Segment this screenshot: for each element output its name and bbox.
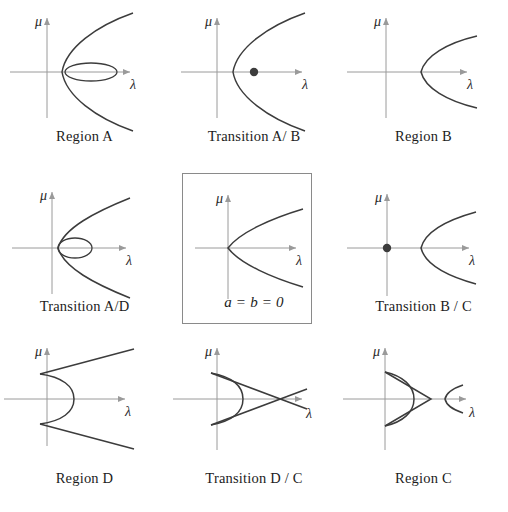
axes [10, 18, 130, 118]
x-axis-arrow [119, 245, 126, 251]
branch-upper-line [211, 373, 307, 409]
panel-transition-a-d: μ λ Transition A/D [0, 166, 169, 336]
branch-lower-line [40, 424, 134, 449]
x-axis-arrow [295, 69, 302, 75]
panel-caption-region-d: Region D [0, 470, 169, 487]
axes [195, 195, 296, 299]
axes [343, 348, 466, 450]
panel-region-b: μ λ Region B [339, 0, 508, 166]
y-axis-arrow [214, 18, 220, 25]
equilibrium-point-dot [383, 244, 391, 252]
figure-grid: μ λ Region A μ λ Transition A/ B [0, 0, 508, 512]
panel-caption-transition-a-d: Transition A/D [0, 298, 169, 315]
axes [181, 18, 302, 118]
y-axis-arrow [225, 195, 231, 202]
y-axis-arrow [49, 192, 55, 199]
y-axis-arrow [383, 18, 389, 25]
panel-region-a: μ λ Region A [0, 0, 169, 166]
x-axis-arrow [459, 396, 466, 402]
panel-caption-transition-b-c: Transition B / C [339, 298, 508, 315]
x-axis-arrow [118, 396, 125, 402]
x-axis-arrow [460, 69, 467, 75]
y-axis-arrow [382, 348, 388, 355]
panel-caption-transition-d-c: Transition D / C [169, 470, 339, 487]
panel-caption-a-b-zero: a = b = 0 [169, 294, 339, 311]
panel-caption-region-c: Region C [339, 470, 508, 487]
y-axis-arrow [384, 194, 390, 201]
axes [173, 348, 302, 450]
y-axis-arrow [44, 18, 50, 25]
branch-upper-line [40, 349, 134, 374]
y-axis-arrow [44, 348, 50, 355]
axes [347, 18, 467, 118]
panel-caption-region-a: Region A [0, 128, 169, 145]
x-axis-arrow [123, 69, 130, 75]
equilibrium-point-dot [250, 68, 258, 76]
panel-region-d: μ λ Region D [0, 336, 169, 512]
axes [347, 194, 469, 296]
panel-caption-transition-a-b: Transition A/ B [169, 128, 339, 145]
x-axis-arrow [289, 245, 296, 251]
panel-caption-region-b: Region B [339, 128, 508, 145]
x-axis-arrow [295, 396, 302, 402]
panel-region-c: μ λ Region C [339, 336, 508, 512]
branch-lower-line [211, 389, 307, 425]
panel-transition-b-c: μ λ Transition B / C [339, 166, 508, 336]
axes [4, 348, 125, 446]
panel-a-b-zero: μ λ a = b = 0 [169, 166, 339, 336]
panel-transition-a-b: μ λ Transition A/ B [169, 0, 339, 166]
panel-transition-d-c: μ λ Transition D / C [169, 336, 339, 512]
x-axis-arrow [462, 245, 469, 251]
y-axis-arrow [214, 348, 220, 355]
